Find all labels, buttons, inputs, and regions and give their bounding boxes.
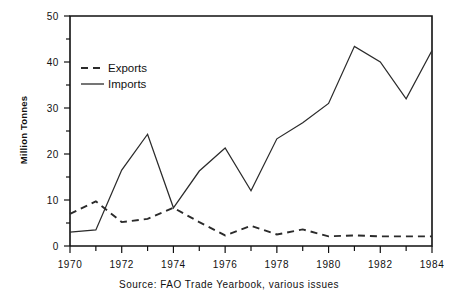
chart-legend: Exports Imports	[81, 62, 147, 90]
x-tick-label: 1980	[316, 259, 341, 270]
chart-figure: 01020304050 1970197219741976197819801982…	[0, 0, 458, 300]
y-axis-ticks	[64, 16, 70, 246]
y-tick-label: 10	[47, 195, 59, 206]
x-tick-label: 1972	[109, 259, 134, 270]
y-tick-label: 0	[53, 241, 59, 252]
series-line-imports	[70, 46, 432, 232]
y-axis-title: Million Tonnes	[18, 96, 29, 165]
y-tick-label: 30	[47, 103, 59, 114]
x-tick-label: 1984	[420, 259, 445, 270]
y-axis-tick-labels: 01020304050	[47, 11, 59, 252]
y-axis-title-text: Million Tonnes	[18, 96, 29, 165]
x-axis-tick-labels: 19701972197419761978198019821984	[58, 259, 445, 270]
legend-label-imports: Imports	[108, 78, 147, 90]
x-tick-label: 1974	[161, 259, 186, 270]
series-group	[70, 46, 432, 236]
line-chart-canvas: 01020304050 1970197219741976197819801982…	[0, 0, 458, 300]
y-tick-label: 40	[47, 57, 59, 68]
x-tick-label: 1978	[265, 259, 290, 270]
x-axis-ticks	[70, 246, 432, 253]
y-tick-label: 50	[47, 11, 59, 22]
x-tick-label: 1970	[58, 259, 83, 270]
x-tick-label: 1976	[213, 259, 238, 270]
plot-frame	[70, 16, 432, 246]
x-tick-label: 1982	[368, 259, 393, 270]
source-caption: Source: FAO Trade Yearbook, various issu…	[119, 279, 339, 290]
series-line-exports	[70, 201, 432, 236]
y-tick-label: 20	[47, 149, 59, 160]
legend-label-exports: Exports	[108, 62, 147, 74]
